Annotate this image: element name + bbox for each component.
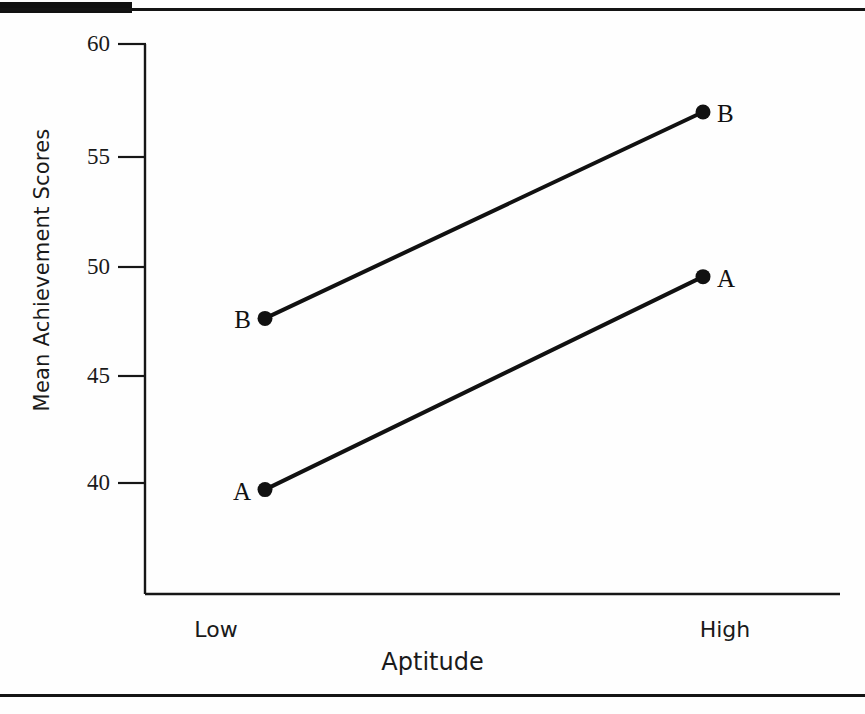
series-b-line [265, 112, 703, 318]
y-tick-label-40: 40 [54, 471, 110, 494]
series-a-line [265, 277, 703, 490]
series-b-point-low[interactable] [258, 311, 273, 326]
x-tick-label-high: High [655, 618, 795, 642]
x-tick-label-low: Low [146, 618, 286, 642]
figure-root: B B A A 60 55 50 45 40 Mean Achievement … [0, 0, 865, 714]
series-b-label-low: B [234, 306, 251, 333]
y-tick-label-50: 50 [54, 255, 110, 278]
y-tick-label-60: 60 [54, 32, 110, 55]
x-axis-title: Aptitude [0, 648, 865, 676]
series-a-label-low: A [233, 478, 251, 505]
y-tick-label-45: 45 [54, 364, 110, 387]
y-axis-title: Mean Achievement Scores [30, 40, 60, 500]
y-tick-label-55: 55 [54, 145, 110, 168]
y-axis-ticks [118, 44, 146, 483]
series-b-label-high: B [717, 100, 734, 127]
series-a-point-high[interactable] [696, 269, 711, 284]
series-a-point-low[interactable] [258, 482, 273, 497]
series-a-label-high: A [717, 265, 735, 292]
line-chart-plot: B B A A [0, 0, 865, 714]
series-b-point-high[interactable] [696, 105, 711, 120]
